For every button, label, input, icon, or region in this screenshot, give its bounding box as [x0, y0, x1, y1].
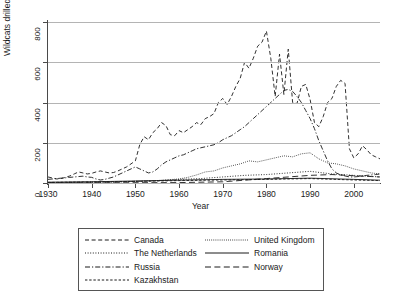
x-tick-label-1930: 1930: [28, 190, 68, 199]
series-line-the-netherlands: [48, 171, 380, 182]
y-axis-title: Wildcats drilled: [2, 0, 12, 56]
legend-key-long-dashed: [205, 262, 249, 272]
x-tick-label-1950: 1950: [115, 190, 155, 199]
plot-area: [48, 22, 380, 183]
x-axis-title: Year: [0, 201, 401, 211]
gridline-y-0: [48, 183, 380, 184]
legend-label: Kazakhstan: [134, 275, 178, 285]
gridline-y-200: [48, 143, 380, 144]
legend-key-short-dashed: [85, 275, 129, 285]
legend-label: Norway: [254, 262, 283, 272]
legend-item-romania[interactable]: Romania: [205, 247, 314, 261]
x-tick-label-1970: 1970: [203, 190, 243, 199]
y-tick-label-600: 600: [34, 62, 42, 86]
x-tick-label-1960: 1960: [159, 190, 199, 199]
gridline-y-800: [48, 22, 380, 23]
series-line-united-kingdom: [48, 153, 380, 183]
legend-column-right: United KingdomRomaniaNorway: [205, 233, 314, 274]
gridline-y-600: [48, 62, 380, 63]
legend-label: The Netherlands: [134, 248, 197, 258]
legend-item-kazakhstan[interactable]: Kazakhstan: [85, 274, 197, 288]
y-tick-label-200: 200: [34, 143, 42, 167]
legend-item-the-netherlands[interactable]: The Netherlands: [85, 247, 197, 261]
legend-column-left: CanadaThe NetherlandsRussiaKazakhstan: [85, 233, 197, 287]
series-line-canada: [48, 31, 380, 179]
y-tick-label-800: 800: [34, 22, 42, 46]
x-tick-label-2000: 2000: [334, 190, 374, 199]
x-tick-label-1940: 1940: [72, 190, 112, 199]
legend-key-dash-dot: [85, 262, 129, 272]
legend-item-norway[interactable]: Norway: [205, 260, 314, 274]
y-tick-label-400: 400: [34, 103, 42, 127]
legend-label: Canada: [134, 235, 164, 245]
legend-item-russia[interactable]: Russia: [85, 260, 197, 274]
legend-item-canada[interactable]: Canada: [85, 233, 197, 247]
legend-key-dotted: [85, 248, 129, 258]
gridline-y-400: [48, 103, 380, 104]
legend-item-united-kingdom[interactable]: United Kingdom: [205, 233, 314, 247]
chart-figure: Wildcats drilled 0200400600800 193019401…: [0, 0, 401, 299]
legend-key-solid: [205, 248, 249, 258]
x-tick-label-1980: 1980: [246, 190, 286, 199]
legend-key-dashed: [85, 235, 129, 245]
chart-legend: CanadaThe NetherlandsRussiaKazakhstan Un…: [78, 228, 324, 291]
legend-label: Russia: [134, 262, 160, 272]
legend-key-fine-dotted: [205, 235, 249, 245]
legend-label: Romania: [254, 248, 288, 258]
legend-label: United Kingdom: [254, 235, 314, 245]
x-tick-label-1990: 1990: [290, 190, 330, 199]
